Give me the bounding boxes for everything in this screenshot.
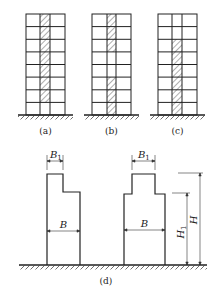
frame-b-label: (b) — [105, 126, 118, 136]
right-b-label: B — [140, 218, 148, 229]
ground-a — [18, 115, 73, 120]
frame-c-label: (c) — [171, 126, 183, 136]
setback-diagram-d: B1 B B1 B — [19, 149, 207, 286]
frame-a-label: (a) — [39, 126, 51, 136]
left-b-label: B — [59, 219, 67, 230]
ground-c — [150, 115, 205, 120]
h-label: H — [188, 215, 199, 225]
frame-a: (a) — [18, 14, 73, 136]
h1-label: H1 — [175, 225, 188, 239]
frame-c: (c) — [150, 14, 205, 136]
structural-diagram: (a) (b) — [0, 0, 223, 298]
setback-label: (d) — [100, 276, 113, 286]
left-b1-label: B1 — [49, 149, 62, 162]
right-b1-label: B1 — [137, 149, 150, 162]
hatched-walls-a — [40, 14, 50, 102]
frame-b: (b) — [84, 14, 139, 136]
ground-d — [19, 265, 207, 270]
left-b-dimension — [47, 230, 80, 232]
ground-b — [84, 115, 139, 120]
right-b-dimension — [124, 229, 165, 231]
